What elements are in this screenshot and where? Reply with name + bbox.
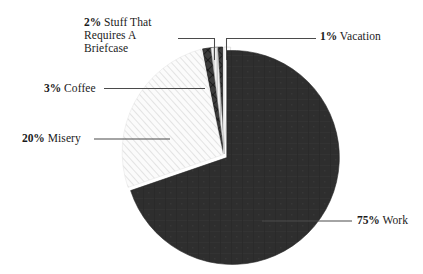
slice-label-briefcase: 2% Stuff That Requires A Briefcase	[84, 16, 176, 56]
slice-name-misery: Misery	[48, 132, 81, 144]
slice-label-work: 75% Work	[357, 214, 408, 227]
slice-label-coffee: 3% Coffee	[44, 82, 96, 95]
slice-label-misery: 20% Misery	[22, 132, 81, 145]
slice-percent-vacation: 1%	[320, 30, 337, 42]
slice-percent-briefcase: 2%	[84, 16, 101, 28]
pie-chart-figure: 2% Stuff That Requires A Briefcase 3% Co…	[0, 0, 423, 274]
slice-label-vacation: 1% Vacation	[320, 30, 381, 43]
slice-name-work: Work	[382, 214, 408, 226]
slice-percent-misery: 20%	[22, 132, 45, 144]
slice-percent-coffee: 3%	[44, 82, 61, 94]
slice-percent-work: 75%	[357, 214, 380, 226]
slice-name-vacation: Vacation	[340, 30, 381, 42]
slice-name-coffee: Coffee	[64, 82, 96, 94]
